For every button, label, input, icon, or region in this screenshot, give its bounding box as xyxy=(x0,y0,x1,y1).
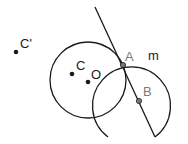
line-ab xyxy=(95,7,155,137)
diagram-svg: C' C O A m B xyxy=(0,0,188,144)
label-c: C xyxy=(76,58,85,73)
label-m: m xyxy=(148,48,159,63)
point-c-prime xyxy=(14,50,19,55)
geometry-diagram: C' C O A m B xyxy=(0,0,188,144)
label-a: A xyxy=(125,49,134,64)
point-c xyxy=(70,72,75,77)
label-b: B xyxy=(143,84,152,99)
arc-m xyxy=(93,67,171,137)
label-c-prime: C' xyxy=(20,36,32,51)
point-o xyxy=(86,80,91,85)
point-b xyxy=(136,98,141,103)
label-o: O xyxy=(91,67,101,82)
